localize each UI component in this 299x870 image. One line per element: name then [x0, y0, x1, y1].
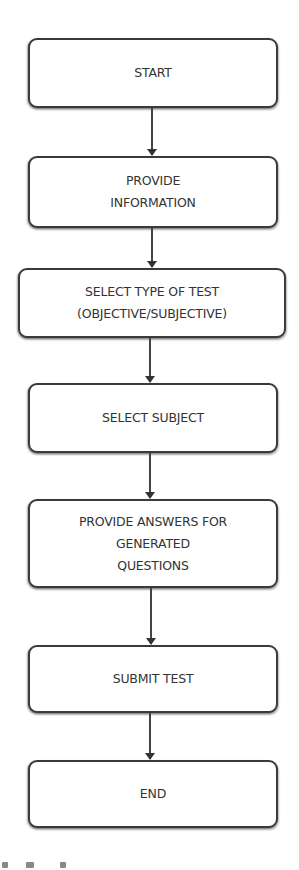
- node-provide-information-label: PROVIDE INFORMATION: [110, 170, 195, 214]
- node-select-type: SELECT TYPE OF TEST (OBJECTIVE/SUBJECTIV…: [18, 268, 286, 338]
- node-provide-information: PROVIDE INFORMATION: [28, 156, 278, 228]
- arrow-type-to-subject: [149, 338, 151, 382]
- node-end: END: [28, 760, 278, 828]
- node-submit-test-label: SUBMIT TEST: [113, 668, 194, 690]
- arrow-start-to-info: [151, 108, 153, 155]
- arrow-submit-to-end: [149, 713, 151, 759]
- arrow-info-to-type: [151, 228, 153, 267]
- node-select-type-label: SELECT TYPE OF TEST (OBJECTIVE/SUBJECTIV…: [77, 281, 227, 325]
- node-select-subject: SELECT SUBJECT: [28, 383, 278, 453]
- arrow-subject-to-answers: [149, 453, 151, 498]
- cropped-caption-fragment: [0, 858, 80, 870]
- node-provide-answers-label: PROVIDE ANSWERS FOR GENERATED QUESTIONS: [79, 511, 227, 577]
- node-end-label: END: [140, 783, 166, 805]
- node-submit-test: SUBMIT TEST: [28, 645, 278, 713]
- arrow-answers-to-submit: [150, 588, 152, 644]
- node-select-subject-label: SELECT SUBJECT: [102, 407, 204, 429]
- node-start: START: [28, 38, 278, 108]
- node-provide-answers: PROVIDE ANSWERS FOR GENERATED QUESTIONS: [28, 499, 278, 588]
- node-start-label: START: [134, 62, 172, 84]
